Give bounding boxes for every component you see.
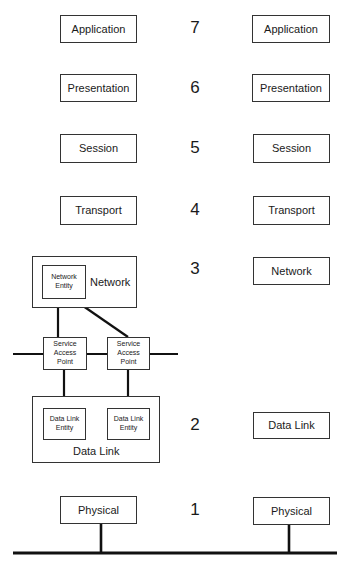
left-data-link-label: Data Link [73,445,119,457]
right-network-box: Network [253,257,330,285]
right-network-label: Network [271,265,311,278]
left-presentation-box: Presentation [60,74,137,102]
dl-entity-right-label: Data Link Entity [110,415,147,433]
left-application-label: Application [72,23,126,36]
right-session-label: Session [272,142,311,155]
right-physical-label: Physical [271,505,312,518]
left-physical-label: Physical [78,504,119,517]
network-entity-box: Network Entity [42,265,86,299]
data-link-entity-right: Data Link Entity [107,408,150,440]
right-session-box: Session [253,134,330,163]
service-access-point-left: Service Access Point [43,337,87,370]
dl-entity-left-label: Data Link Entity [46,415,83,433]
right-application-label: Application [264,23,318,36]
data-link-entity-left: Data Link Entity [43,408,86,440]
layer-number-5: 5 [180,138,210,158]
left-transport-box: Transport [60,196,137,225]
left-network-label: Network [90,276,130,288]
left-session-box: Session [60,134,137,163]
network-entity-label: Network Entity [45,273,83,291]
left-application-box: Application [60,15,137,43]
right-presentation-box: Presentation [252,74,330,102]
layer-number-1: 1 [180,500,210,520]
right-presentation-label: Presentation [260,82,322,95]
right-data-link-box: Data Link [253,412,330,439]
layer-number-3: 3 [180,259,210,279]
layer-number-4: 4 [180,200,210,220]
right-application-box: Application [252,15,330,43]
right-physical-box: Physical [253,497,330,525]
sap-left-label: Service Access Point [47,340,83,366]
left-session-label: Session [79,142,118,155]
right-data-link-label: Data Link [268,419,314,432]
right-transport-label: Transport [268,204,315,217]
service-access-point-right: Service Access Point [107,337,150,370]
right-transport-box: Transport [253,196,330,225]
left-transport-label: Transport [75,204,122,217]
sap-right-label: Service Access Point [111,340,146,366]
left-presentation-label: Presentation [68,82,130,95]
layer-number-7: 7 [180,18,210,38]
left-physical-box: Physical [60,496,137,524]
layer-number-2: 2 [180,415,210,435]
layer-number-6: 6 [180,78,210,98]
